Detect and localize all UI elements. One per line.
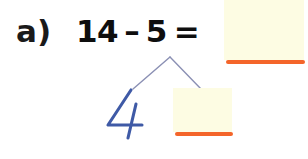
blank-fill <box>173 88 232 132</box>
equation: 14–5= <box>76 14 200 48</box>
problem-label: a) <box>16 14 51 48</box>
equation-minus-operator: – <box>118 12 146 48</box>
handwritten-four <box>104 84 160 142</box>
handwritten-four-stroke-vertical <box>128 104 136 138</box>
number-bond-right-branch-line <box>170 57 201 89</box>
worksheet-problem: a) 14–5= <box>0 0 308 159</box>
equation-equals-sign: = <box>167 13 200 49</box>
answer-blank-result-rule <box>226 60 305 64</box>
equation-minuend: 14 <box>76 13 118 49</box>
answer-blank-result[interactable] <box>224 0 304 60</box>
number-bond-right-part-blank[interactable] <box>173 88 232 132</box>
handwritten-four-stroke-diagonal <box>108 90 142 125</box>
blank-fill <box>224 0 304 60</box>
number-bond-right-part-rule <box>175 132 233 136</box>
equation-subtrahend: 5 <box>146 13 167 49</box>
